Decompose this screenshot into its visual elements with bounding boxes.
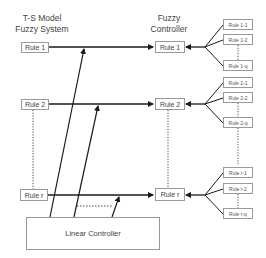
sub-rule-1-q: Rule 1-q [223,60,253,71]
sub-rule-1-1: Rule 1-1 [223,19,253,30]
lc-to-ruler-arrow [112,197,119,217]
fc-rule-1: Rule 1 [155,41,185,53]
ts-model-title: T-S Model Fuzzy System [12,13,72,35]
title-line-1: Fuzzy [145,13,193,24]
sub-rule-2-q: Rule 2-q [223,117,253,128]
lc-to-rule2-arrow [74,106,98,217]
fuzzy-controller-title: Fuzzy Controller [145,13,193,35]
title-line-2: Controller [145,24,193,35]
title-line-2: Fuzzy System [12,24,72,35]
sub-rule-2-1: Rule 2-1 [223,77,253,88]
ts-rule-2: Rule 2 [21,99,49,110]
sub-rule-2-2: Rule 2-2 [223,92,253,103]
ts-rule-r: Rule r [20,189,48,201]
sub-rule-r-q: Rule r-q [223,208,253,219]
sub-rule-r-1: Rule r-1 [223,167,253,178]
title-line-1: T-S Model [12,13,72,24]
sub-rule-r-2: Rule r-2 [223,183,253,194]
sub-rule-1-2: Rule 1-2 [223,34,253,45]
fc-rule-2: Rule 2 [155,98,185,110]
linear-controller-box: Linear Controller [26,217,160,250]
fc-rule-r: Rule r [155,188,185,201]
ts-rule-1: Rule 1 [21,42,49,53]
